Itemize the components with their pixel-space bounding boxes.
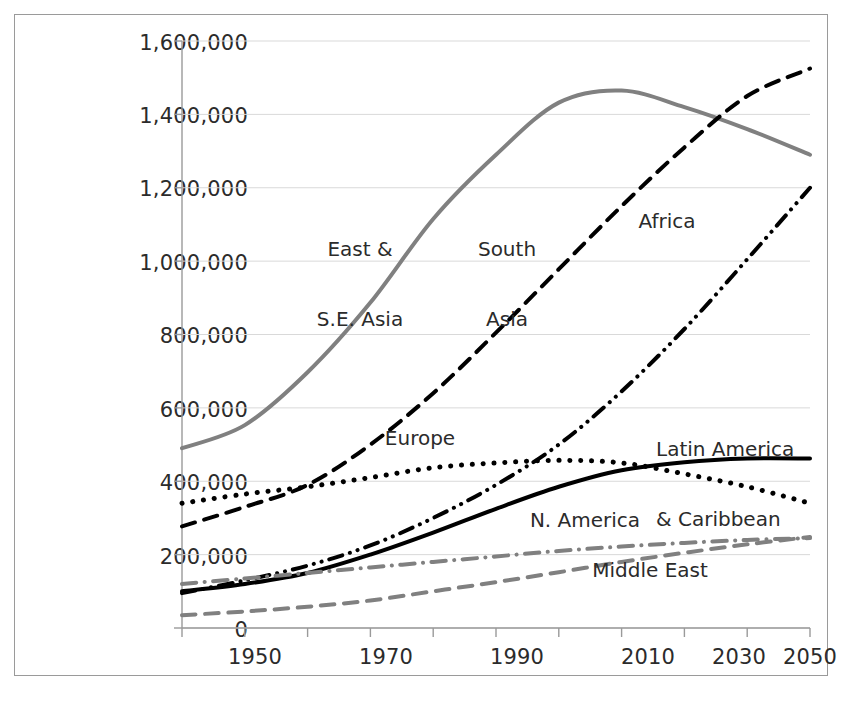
series-label-east-se-asia: East & S.E. Asia — [295, 192, 425, 378]
series-label-east-se-asia-line1: East & — [295, 238, 425, 261]
series-label-latin-america: Latin America & Caribbean — [656, 392, 836, 578]
series-label-east-se-asia-line2: S.E. Asia — [295, 308, 425, 331]
series-label-latin-america-line1: Latin America — [656, 438, 836, 461]
series-label-europe: Europe — [372, 427, 468, 450]
series-label-south-asia-line1: South — [462, 238, 552, 261]
series-label-middle-east: Middle East — [570, 559, 730, 582]
series-label-south-asia: South Asia — [462, 192, 552, 378]
series-label-africa: Africa — [625, 210, 709, 233]
series-label-n-america: N. America — [510, 509, 660, 532]
series-label-south-asia-line2: Asia — [462, 308, 552, 331]
series-label-latin-america-line2: & Caribbean — [656, 508, 836, 531]
chart-figure: 1,600,000 1,400,000 1,200,000 1,000,000 … — [0, 0, 844, 704]
